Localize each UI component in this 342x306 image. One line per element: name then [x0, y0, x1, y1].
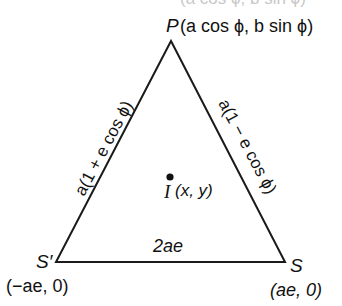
vertex-s-prime-name: S′ — [36, 251, 54, 272]
incenter-name: I — [163, 181, 172, 202]
triangle-diagram: (a cos ϕ, b sin ϕ) P (a cos ϕ, b sin ϕ) … — [0, 0, 342, 306]
incenter-label: I (x, y) — [163, 181, 213, 202]
vertex-s-coords: (ae, 0) — [270, 280, 322, 300]
vertex-s-prime-coords: (−ae, 0) — [6, 276, 69, 296]
incenter-coords: (x, y) — [175, 181, 213, 200]
side-base-label: 2ae — [152, 236, 183, 256]
vertex-p-label: P (a cos ϕ, b sin ϕ) — [166, 15, 313, 36]
side-left-label: a(1 + e cos ϕ) — [71, 98, 137, 199]
top-cut-text: (a cos ϕ, b sin ϕ) — [180, 0, 306, 8]
vertex-s-name: S — [290, 255, 303, 276]
incenter-point — [166, 173, 173, 180]
vertex-p-coords: (a cos ϕ, b sin ϕ) — [180, 16, 313, 36]
vertex-p-name: P — [166, 15, 179, 36]
